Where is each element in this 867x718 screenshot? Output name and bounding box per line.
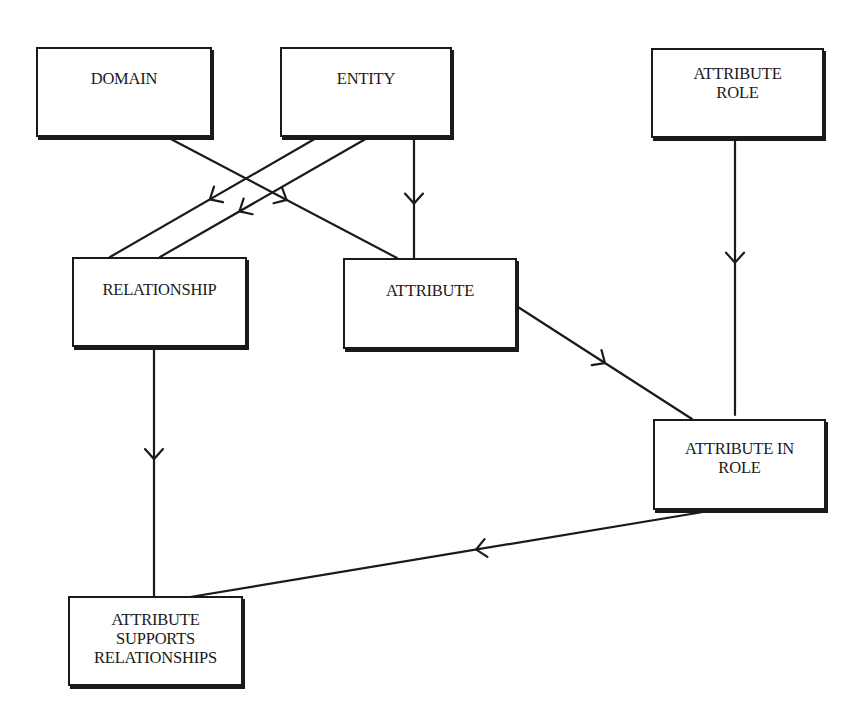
edge-attribute-role-to-attribute-in-role bbox=[726, 138, 744, 415]
node-label-attribute-in-role: ATTRIBUTE IN ROLE bbox=[655, 439, 824, 477]
connector-line bbox=[190, 510, 715, 597]
node-attribute-in-role: ATTRIBUTE IN ROLE bbox=[653, 419, 826, 510]
entity-relationship-diagram: DOMAIN ENTITY ATTRIBUTE ROLE RELATIONSHI… bbox=[0, 0, 867, 718]
edge-attribute-to-attribute-in-role bbox=[518, 307, 692, 419]
node-domain: DOMAIN bbox=[36, 47, 212, 137]
node-label-attribute: ATTRIBUTE bbox=[345, 281, 515, 300]
node-attribute: ATTRIBUTE bbox=[343, 258, 517, 349]
node-attribute-role: ATTRIBUTE ROLE bbox=[651, 48, 824, 138]
node-label-attribute-role: ATTRIBUTE ROLE bbox=[653, 64, 822, 102]
node-label-attribute-supports-relationships: ATTRIBUTE SUPPORTS RELATIONSHIPS bbox=[70, 610, 241, 667]
edge-entity-to-relationship-1 bbox=[110, 137, 318, 257]
edge-entity-to-relationship-2 bbox=[160, 137, 369, 257]
node-label-entity: ENTITY bbox=[282, 69, 450, 88]
edge-attribute-in-role-to-attribute-supports-relationships bbox=[190, 510, 715, 597]
edge-entity-to-attribute bbox=[405, 137, 423, 258]
connector-line bbox=[167, 137, 397, 258]
node-label-domain: DOMAIN bbox=[38, 69, 210, 88]
node-relationship: RELATIONSHIP bbox=[72, 257, 247, 347]
edge-relationship-to-attribute-supports-relationships bbox=[145, 347, 163, 596]
edge-domain-to-attribute bbox=[167, 137, 397, 258]
connector-line bbox=[110, 137, 318, 257]
node-entity: ENTITY bbox=[280, 47, 452, 137]
connector-line bbox=[160, 137, 369, 257]
node-attribute-supports-relationships: ATTRIBUTE SUPPORTS RELATIONSHIPS bbox=[68, 596, 243, 686]
node-label-relationship: RELATIONSHIP bbox=[74, 280, 245, 299]
